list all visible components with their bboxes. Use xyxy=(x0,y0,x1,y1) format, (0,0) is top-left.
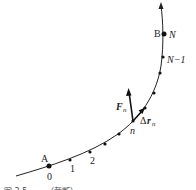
force-vector xyxy=(129,92,133,121)
point-N-minus-1 xyxy=(161,55,164,58)
label-B: B xyxy=(154,28,161,39)
force-arrow-icon xyxy=(126,88,132,96)
label-A: A xyxy=(41,153,49,164)
label-2: 2 xyxy=(90,155,95,166)
point-k xyxy=(152,91,155,94)
label-force-sub: n xyxy=(123,106,127,114)
curve-arrow-icon xyxy=(159,2,164,9)
label-N: N xyxy=(168,29,177,40)
label-n: n xyxy=(130,125,135,136)
point-1 xyxy=(68,158,71,161)
label-1: 1 xyxy=(70,163,75,174)
point-A xyxy=(47,164,52,169)
point-3 xyxy=(103,142,106,145)
label-0: 0 xyxy=(47,171,52,182)
label-r-sub: n xyxy=(152,120,156,128)
point-4 xyxy=(117,132,120,135)
label-delta: Δ xyxy=(140,115,147,126)
point-B xyxy=(162,32,167,37)
label-N-minus-1: N−1 xyxy=(166,54,185,65)
label-r: r xyxy=(147,115,151,126)
label-force: F xyxy=(115,101,123,112)
figure-caption: 图 3.5 ……（截断） xyxy=(4,186,78,190)
point-2 xyxy=(88,150,91,153)
point-k2 xyxy=(158,71,161,74)
work-path-diagram: A 0 1 2 n B N N−1 F n Δ r n 图 3.5 ……（截断） xyxy=(0,0,196,190)
